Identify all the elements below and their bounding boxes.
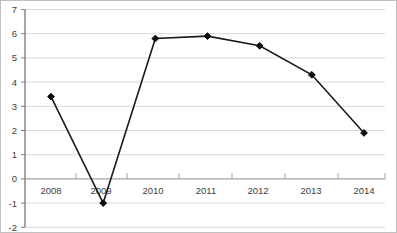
y-axis-label-2: 2 [12,125,17,136]
x-axis-label-2008: 2008 [40,185,61,196]
y-axis-label-neg1: -1 [9,198,17,209]
x-axis-label-2014: 2014 [353,185,374,196]
y-axis-label-3: 3 [12,101,17,112]
y-axis-label-7: 7 [12,4,17,15]
x-axis-label-2013: 2013 [300,185,321,196]
y-axis-label-neg2: -2 [9,222,17,233]
y-axis-label-6: 6 [12,28,17,39]
y-axis-label-4: 4 [12,77,17,88]
x-axis-label-2010: 2010 [142,185,163,196]
y-axis-label-0: 0 [12,173,17,184]
x-axis-label-2012: 2012 [247,185,268,196]
chart-canvas: 7 6 5 4 3 2 1 0 -1 -2 2008 2009 2010 201… [0,0,397,233]
y-axis-label-5: 5 [12,52,17,63]
y-axis-label-1: 1 [12,149,17,160]
x-axis-label-2011: 2011 [196,185,216,196]
line-chart: 7 6 5 4 3 2 1 0 -1 -2 2008 2009 2010 201… [0,0,397,233]
